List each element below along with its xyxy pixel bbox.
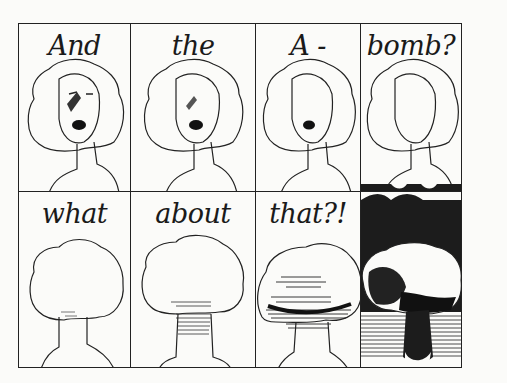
woman-face-illustration (256, 24, 361, 192)
mushroom-cloud-illustration (19, 192, 131, 368)
woman-face-illustration (19, 24, 131, 192)
mushroom-cloud-illustration (256, 192, 361, 368)
comic-strip: And the A - bomb? (18, 23, 462, 368)
panel-a: A - (255, 23, 361, 192)
panel-that: that?! (255, 191, 361, 368)
panel-what: what (18, 191, 131, 368)
woman-face-illustration (131, 24, 256, 192)
mushroom-cloud-illustration (131, 192, 256, 368)
woman-face-illustration (361, 24, 462, 192)
mushroom-cloud-illustration (361, 192, 462, 368)
panel-about: about (130, 191, 256, 368)
panel-and: And (18, 23, 131, 192)
panel-bomb: bomb? (360, 23, 462, 192)
panel-the: the (130, 23, 256, 192)
panel-explosion (360, 191, 462, 368)
